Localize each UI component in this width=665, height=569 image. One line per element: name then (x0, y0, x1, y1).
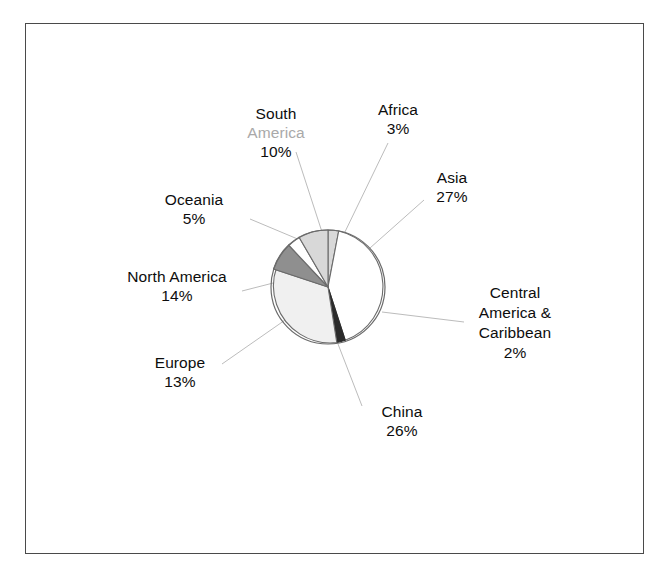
leader-line-south-america (296, 152, 322, 232)
pie-label-central-america-value: 2% (466, 343, 564, 363)
pie-label-africa: Africa 3% (362, 100, 434, 138)
leader-line-europe (222, 318, 288, 364)
pie-label-south-america-value: 10% (228, 142, 324, 161)
pie-label-asia-value: 27% (420, 187, 484, 206)
pie-slices-group (271, 230, 385, 344)
pie-label-central-america-line3: Caribbean (466, 323, 564, 343)
pie-label-china-value: 26% (368, 421, 436, 440)
pie-label-oceania-name: Oceania (165, 191, 223, 208)
pie-label-central-america-line2: America & (466, 303, 564, 323)
leader-line-china (338, 344, 362, 406)
pie-label-south-america-line1: South (255, 105, 296, 122)
pie-label-africa-name: Africa (378, 101, 418, 118)
pie-label-africa-value: 3% (362, 119, 434, 138)
pie-label-south-america: South America 10% (228, 104, 324, 161)
pie-label-oceania: Oceania 5% (146, 190, 242, 228)
pie-label-central-america-line1: Central (490, 284, 541, 301)
pie-label-europe: Europe 13% (135, 353, 225, 391)
pie-label-china: China 26% (368, 402, 436, 440)
pie-label-europe-value: 13% (135, 372, 225, 391)
pie-label-north-america-name: North America (127, 268, 227, 285)
pie-label-north-america: North America 14% (104, 267, 250, 305)
pie-label-asia-name: Asia (437, 169, 468, 186)
leader-line-oceania (250, 219, 300, 240)
pie-label-central-america-caribbean: Central America & Caribbean 2% (466, 283, 564, 363)
pie-label-china-name: China (382, 403, 423, 420)
pie-label-north-america-value: 14% (104, 286, 250, 305)
pie-label-oceania-value: 5% (146, 209, 242, 228)
leader-line-central-america (382, 312, 464, 322)
leader-line-africa (342, 143, 388, 238)
pie-graphic (0, 0, 665, 569)
leader-line-asia (370, 200, 424, 248)
pie-label-europe-name: Europe (155, 354, 206, 371)
pie-label-asia: Asia 27% (420, 168, 484, 206)
pie-chart-figure: South America 10% Africa 3% Asia 27% Oce… (0, 0, 665, 569)
pie-label-south-america-line2: America (228, 123, 324, 142)
